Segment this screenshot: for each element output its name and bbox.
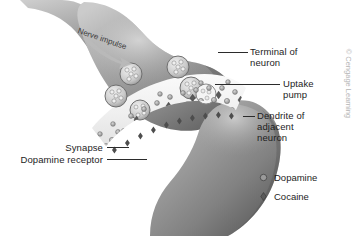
legend-item-cocaine: Cocaine <box>259 191 309 202</box>
synapse-diagram: Nerve impulse Terminal of neuron Uptake … <box>0 0 354 240</box>
copyright-notice: © Cengage Learning <box>344 49 353 118</box>
label-terminal-of-neuron: Terminal of neuron <box>250 46 298 68</box>
leader-line-dopamine-receptor <box>107 159 147 160</box>
leader-line-dendrite <box>243 116 255 117</box>
label-dendrite-of-adjacent-neuron: Dendrite of adjacent neuron <box>257 110 305 143</box>
leader-line-terminal-of-neuron <box>218 52 248 53</box>
label-dopamine-receptor: Dopamine receptor <box>0 154 103 165</box>
legend-label-dopamine: Dopamine <box>274 172 317 183</box>
label-uptake-pump: Uptake pump <box>283 78 314 100</box>
cocaine-marker-icon <box>259 192 268 201</box>
label-synapse: Synapse <box>0 142 103 153</box>
dopamine-marker-icon <box>259 173 268 182</box>
legend-item-dopamine: Dopamine <box>259 172 317 183</box>
legend-label-cocaine: Cocaine <box>274 191 309 202</box>
leader-line-synapse <box>107 147 129 148</box>
leader-line-uptake-pump <box>215 84 280 85</box>
